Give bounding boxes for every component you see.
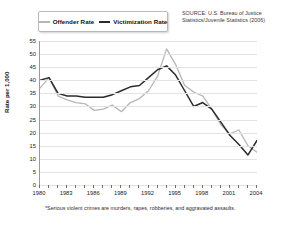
x-axis-tick-label: 1989 [114, 190, 127, 196]
x-axis-tick [39, 185, 40, 188]
x-axis-tick [184, 185, 185, 188]
legend-label-offender: Offender Rate [53, 18, 95, 25]
x-axis-tick [202, 185, 203, 188]
y-axis-tick-label: 35 [24, 90, 36, 96]
x-axis-tick [220, 185, 221, 188]
x-axis-tick-label: 1980 [33, 190, 46, 196]
gridline [40, 159, 257, 160]
x-axis-tick [129, 185, 130, 188]
gridline [40, 172, 257, 173]
x-axis-tick [93, 185, 94, 188]
y-axis-tick-label: 20 [24, 130, 36, 136]
x-axis-tick [256, 185, 257, 188]
x-axis-tick-label: 1983 [60, 190, 73, 196]
x-axis-tick-label: 1992 [141, 190, 154, 196]
y-axis-tick-label: 5 [24, 169, 36, 175]
x-axis-tick [48, 185, 49, 188]
x-axis-tick [211, 185, 212, 188]
gridline [40, 93, 257, 94]
y-axis-tick-label: 40 [24, 77, 36, 83]
series-line-victimization-rate [40, 66, 257, 155]
gridline [40, 67, 257, 68]
x-axis-tick [229, 185, 230, 188]
y-axis-tick-label: 25 [24, 117, 36, 123]
x-axis-tick [66, 185, 67, 188]
x-axis-tick [157, 185, 158, 188]
y-axis-title: Rate per 1,000 [3, 72, 10, 113]
x-axis-tick [84, 185, 85, 188]
y-axis-tick-label: 0 [24, 182, 36, 188]
y-axis-tick-label: 55 [24, 38, 36, 44]
x-axis-tick [148, 185, 149, 188]
x-axis-tick-label: 1998 [195, 190, 208, 196]
x-axis-tick [120, 185, 121, 188]
x-axis-tick [57, 185, 58, 188]
gridline [40, 120, 257, 121]
gridline [40, 80, 257, 81]
x-axis-tick [247, 185, 248, 188]
x-axis-tick [111, 185, 112, 188]
gridline [40, 133, 257, 134]
gridline [40, 146, 257, 147]
x-axis-tick [238, 185, 239, 188]
chart-legend: Offender Rate Victimization Rate [38, 11, 168, 32]
x-axis-tick-label: 1995 [168, 190, 181, 196]
plot-area [39, 41, 257, 186]
series-line-offender-rate [40, 49, 257, 152]
y-axis-tick-label: 10 [24, 156, 36, 162]
legend-label-victimization: Victimization Rate [113, 18, 167, 25]
footnote: *Serious violent crimes are murders, rap… [45, 205, 277, 212]
x-axis-tick [75, 185, 76, 188]
source-note: SOURCE: U.S. Bureau of Justice Statistic… [182, 10, 282, 24]
series-lines [40, 41, 257, 185]
x-axis-tick [138, 185, 139, 188]
legend-item-offender: Offender Rate [39, 18, 95, 25]
x-axis-tick-label: 2001 [222, 190, 235, 196]
x-axis-tick [102, 185, 103, 188]
legend-item-victimization: Victimization Rate [99, 18, 167, 25]
y-axis-tick-label: 45 [24, 64, 36, 70]
gridline [40, 185, 257, 186]
y-axis-tick-label: 30 [24, 103, 36, 109]
x-axis-tick-label: 1986 [87, 190, 100, 196]
x-axis-tick [175, 185, 176, 188]
legend-line-swatch-victimization-icon [99, 21, 110, 23]
gridline [40, 41, 257, 42]
x-axis-tick [193, 185, 194, 188]
gridline [40, 106, 257, 107]
x-axis-tick [166, 185, 167, 188]
y-axis-tick-label: 50 [24, 51, 36, 57]
y-axis-tick-label: 15 [24, 143, 36, 149]
chart-figure: Offender Rate Victimization Rate SOURCE:… [0, 0, 287, 225]
legend-line-swatch-offender-icon [39, 21, 50, 23]
gridline [40, 54, 257, 55]
x-axis-tick-label: 2004 [250, 190, 263, 196]
